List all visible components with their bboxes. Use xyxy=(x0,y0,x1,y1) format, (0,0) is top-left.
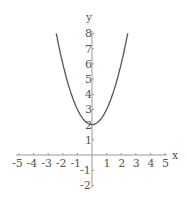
y-tick-label: 1 xyxy=(85,134,92,147)
tick-labels: -5-4-3-2-112345-2-112345678 xyxy=(12,27,169,192)
y-tick-label: 3 xyxy=(85,103,92,116)
y-tick-label: 7 xyxy=(85,43,92,56)
plot: -5-4-3-2-112345-2-112345678 x y xyxy=(0,0,187,203)
x-tick-label: 1 xyxy=(104,157,111,170)
y-tick-label: -1 xyxy=(80,164,91,177)
y-axis-label: y xyxy=(85,11,93,24)
x-tick-label: -4 xyxy=(27,157,38,170)
y-tick-label: 6 xyxy=(85,58,92,71)
y-tick-label: 4 xyxy=(85,88,92,101)
x-tick-label: 3 xyxy=(133,157,140,170)
x-tick-label: 5 xyxy=(162,157,169,170)
x-axis-label: x xyxy=(172,149,179,162)
x-tick-label: -5 xyxy=(12,157,23,170)
y-tick-label: 8 xyxy=(85,27,92,40)
x-tick-label: -3 xyxy=(41,157,52,170)
x-tick-label: 2 xyxy=(118,157,125,170)
y-tick-label: -2 xyxy=(80,179,91,192)
x-tick-label: -2 xyxy=(56,157,67,170)
x-tick-label: 4 xyxy=(147,157,154,170)
y-tick-label: 5 xyxy=(85,73,92,86)
